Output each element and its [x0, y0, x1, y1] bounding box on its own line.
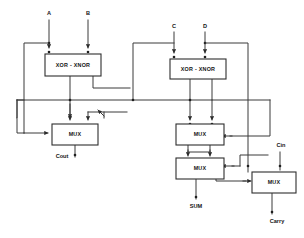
output-label-carry: Carry: [270, 218, 286, 224]
block-mux-carry[interactable]: MUX: [252, 172, 296, 193]
wire-mux-upper-to-lower: [188, 145, 210, 156]
wire-select-into-mux-cout: [88, 110, 127, 120]
block-mux-carry-label: MUX: [268, 179, 281, 185]
wire-sum-output: [195, 179, 198, 199]
input-label-b: B: [86, 10, 90, 16]
wire-xorleft-out2: [93, 76, 130, 88]
wire-select-mux-mid-lower: [222, 155, 268, 166]
block-xor-xnor-left-label: XOR - XNOR: [56, 62, 91, 68]
block-xor-xnor-right-label: XOR - XNOR: [181, 66, 216, 72]
block-xor-xnor-right[interactable]: XOR - XNOR: [170, 59, 226, 79]
wire-carry-output: [271, 193, 274, 214]
circuit-canvas: XOR - XNOR XOR - XNOR MUX MUX MUX MUX A …: [0, 0, 304, 238]
bus-outer-left-rail: [17, 100, 24, 118]
block-mux-mid-lower-label: MUX: [194, 165, 207, 171]
input-label-a: A: [47, 10, 51, 16]
input-label-d: D: [203, 23, 207, 29]
block-mux-cout[interactable]: MUX: [52, 124, 98, 145]
wire-xorleft-out-to-mux: [69, 76, 72, 120]
output-label-cout: Cout: [56, 153, 69, 159]
block-mux-cout-label: MUX: [69, 131, 82, 137]
block-xor-xnor-left[interactable]: XOR - XNOR: [45, 54, 101, 76]
input-wire-a: [48, 20, 51, 53]
input-wire-b: [87, 20, 90, 53]
input-label-c: C: [172, 23, 176, 29]
input-wire-d: [204, 32, 207, 58]
horizontal-bus-main: [17, 99, 270, 102]
output-label-sum: SUM: [190, 203, 203, 209]
circuit-diagram: XOR - XNOR XOR - XNOR MUX MUX MUX MUX A …: [0, 0, 304, 238]
block-mux-mid-upper-label: MUX: [194, 131, 207, 137]
bus-left-loop: [17, 100, 24, 133]
block-mux-mid-lower[interactable]: MUX: [176, 158, 224, 179]
input-label-cin: Cin: [276, 142, 286, 148]
wire-cin-input: [279, 152, 282, 170]
wire-mux-cout-output: [74, 145, 77, 157]
input-wire-c: [173, 32, 176, 58]
wire-xorright-out1: [189, 79, 192, 120]
bus-c-to-left: [133, 43, 174, 100]
block-mux-mid-upper[interactable]: MUX: [176, 124, 224, 145]
